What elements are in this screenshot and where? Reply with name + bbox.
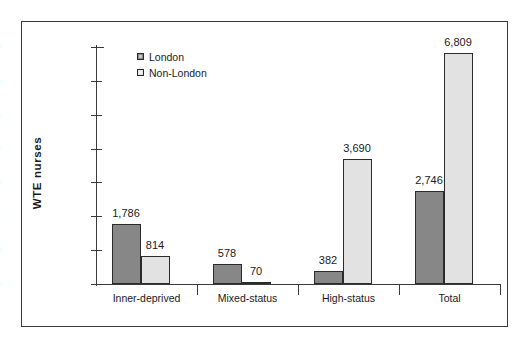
x-axis-separator-tick: [500, 284, 501, 295]
bar-value-label: 2,746: [415, 174, 443, 186]
bar-value-label: 578: [218, 247, 236, 259]
chart-legend: London Non-London: [137, 50, 207, 82]
y-axis-tick: [91, 115, 102, 116]
bar-value-label: 70: [250, 265, 262, 277]
legend-swatch-icon-non-london: [137, 69, 144, 76]
x-axis-separator-tick: [399, 284, 400, 295]
y-axis-tick: [91, 81, 102, 82]
legend-label-london: London: [149, 51, 184, 63]
bar-non-london-total[interactable]: [444, 53, 473, 284]
y-axis-tick: [91, 149, 102, 150]
legend-swatch-icon-london: [137, 53, 144, 60]
y-axis-tick: [91, 284, 102, 285]
x-axis-separator-tick: [298, 284, 299, 295]
bar-non-london-mixed-status[interactable]: [242, 282, 271, 284]
legend-label-non-london: Non-London: [149, 67, 207, 79]
bar-value-label: 3,690: [343, 142, 371, 154]
bar-value-label: 1,786: [112, 207, 140, 219]
x-axis-category-label: Total: [438, 292, 460, 304]
bar-london-inner-deprived[interactable]: [112, 224, 141, 284]
legend-item-london: London: [137, 50, 207, 63]
bar-non-london-inner-deprived[interactable]: [141, 256, 170, 284]
legend-item-non-london: Non-London: [137, 66, 207, 79]
y-axis-tick: [91, 182, 102, 183]
y-axis-tick: [91, 250, 102, 251]
x-axis-category-label: Mixed-status: [218, 292, 278, 304]
bar-value-label: 382: [319, 254, 337, 266]
bar-london-high-status[interactable]: [314, 271, 343, 284]
y-axis-tick: [91, 216, 102, 217]
y-axis-title-text: WTE nurses: [31, 137, 43, 209]
bar-non-london-high-status[interactable]: [343, 159, 372, 284]
y-axis-title: WTE nurses: [26, 118, 48, 228]
bar-value-label: 6,809: [444, 36, 472, 48]
bar-london-total[interactable]: [415, 191, 444, 284]
bar-london-mixed-status[interactable]: [213, 264, 242, 284]
x-axis-separator-tick: [197, 284, 198, 295]
chart-figure: WTE nurses 01,0002,0003,0004,0005,0006,0…: [0, 0, 522, 346]
x-axis-category-label: Inner-deprived: [113, 292, 181, 304]
x-axis-category-label: High-status: [322, 292, 375, 304]
bar-value-label: 814: [146, 239, 164, 251]
y-axis-tick: [91, 47, 104, 48]
